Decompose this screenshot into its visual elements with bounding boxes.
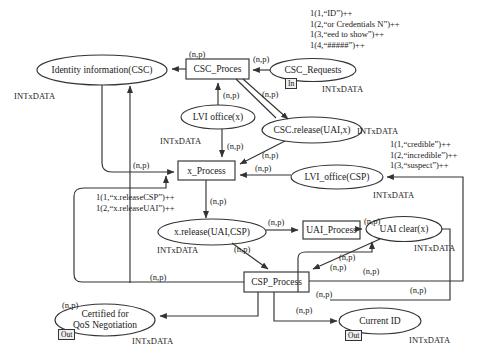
arc-label-cspprocess-to-certified: (n,p) xyxy=(62,300,78,310)
arc-label-xrelease-to-cspprocess: (n,p) xyxy=(234,244,250,254)
port-tag-csc-requests-in: In xyxy=(285,78,297,89)
arc-label-uaiprocess-to-uaiclear: (n,p) xyxy=(364,216,380,226)
marking-line: 1(4,“#####”)++ xyxy=(310,40,400,51)
marking-line: 1(1,“credible”)++ xyxy=(390,139,457,150)
type-label-certified-qos: INTxDATA xyxy=(132,336,173,346)
place-csc-release-uai-x xyxy=(262,117,362,143)
transition-csp-process xyxy=(244,272,309,292)
petri-net-diagram: Identity information(CSC) CSC_Requests L… xyxy=(0,0,479,363)
arc-label-lviofficecsp-to-xprocess: (n,p) xyxy=(255,163,271,173)
arc-label-uaiclear-to-cspprocess: (n,p) xyxy=(330,262,346,272)
marking-line: 1(3,“suspect”)++ xyxy=(390,160,457,171)
marking-line: 1(2,“x.releaseUAI”)++ xyxy=(96,203,175,214)
arc-label-cscrelease-to-xprocess: (n,p) xyxy=(262,150,278,160)
arc-label-xprocess-to-xrelease: (n,p) xyxy=(210,196,226,206)
port-tag-current-id-out: Out xyxy=(345,330,362,341)
arc-label-cscrequests-to-cscproces: (n,p) xyxy=(253,54,269,64)
place-lvi-office-csp xyxy=(291,165,383,189)
arc-label-cspprocess-to-currentid: (n,p) xyxy=(296,305,312,315)
arc-label-leftrail-to-cspprocess: (n,p) xyxy=(150,272,166,282)
arc-label-cspprocess-feedback-left: (n,p) xyxy=(339,252,355,262)
arc-label-left-rail-to-xprocess: (n,p) xyxy=(133,160,149,170)
transition-uai-process xyxy=(303,221,360,239)
type-label-identity-information: INTxDATA xyxy=(14,91,55,101)
arc-label-lvioffice-to-cscproces: (n,p) xyxy=(223,90,239,100)
place-identity-information xyxy=(37,55,167,85)
transition-x-process xyxy=(178,161,235,180)
type-label-lvi-office-x: INTxDATA xyxy=(160,136,201,146)
transition-csc-proces xyxy=(186,59,249,79)
arc-label-xrelease-to-uaiprocess: (n,p) xyxy=(268,217,284,227)
marking-line: 1(3,“eed to show”)++ xyxy=(310,29,400,40)
place-x-release-uai-csp xyxy=(158,219,266,245)
type-label-current-id: INTxDATA xyxy=(409,335,450,345)
marking-line: 1(2,“or Credentials N”)++ xyxy=(310,19,400,30)
arc-label-cspprocess-right-out: (n,p) xyxy=(410,285,426,295)
arc-label-right-rail-to-cspprocess: (n,p) xyxy=(363,266,379,276)
arc-label-cspprocess-to-uaiclear-return: (n,p) xyxy=(316,289,332,299)
marking-line: 1(1,“x.releaseCSP”)++ xyxy=(96,192,175,203)
port-tag-certified-qos-out: Out xyxy=(58,329,75,340)
arc-label-lvioffice-to-xprocess: (n,p) xyxy=(227,141,243,151)
arc-cspprocess-to-certified xyxy=(160,292,258,316)
initial-marking-csc-requests: 1(1,“ID”)++ 1(2,“or Credentials N”)++ 1(… xyxy=(310,8,400,50)
initial-marking-x-process: 1(1,“x.releaseCSP”)++ 1(2,“x.releaseUAI”… xyxy=(96,192,175,213)
type-label-csc-requests: INTxDATA xyxy=(322,84,363,94)
arc-right-rail-to-cspprocess xyxy=(330,229,450,300)
arc-label-cscproces-to-identity: (n,p) xyxy=(189,49,205,59)
type-label-uai-clear-x: INTxDATA xyxy=(414,243,455,253)
place-csc-requests xyxy=(270,59,356,82)
arc-cscproces-to-cscrelease xyxy=(243,79,288,119)
type-label-x-release-uai-csp: INTxDATA xyxy=(157,245,198,255)
arc-identity-rail-down-to-xprocess xyxy=(102,85,174,172)
marking-line: 1(1,“ID”)++ xyxy=(310,8,400,19)
place-lvi-office-x xyxy=(181,105,255,129)
type-label-lvi-office-csp: INTxDATA xyxy=(373,190,414,200)
initial-marking-lvi-office-csp: 1(1,“credible”)++ 1(2,“incredible”)++ 1(… xyxy=(390,139,457,171)
type-label-csc-release-uai-x: INTxDATA xyxy=(357,126,398,136)
marking-line: 1(2,“incredible”)++ xyxy=(390,150,457,161)
arc-label-cscproces-to-cscrelease: (n,p) xyxy=(262,89,278,99)
